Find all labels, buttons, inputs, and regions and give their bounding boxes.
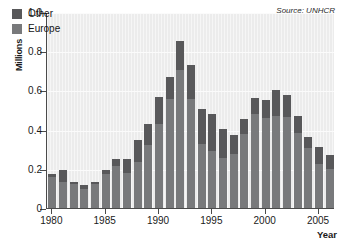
x-tick: [105, 209, 106, 214]
bar-1986: [112, 159, 120, 208]
bar-segment-europe: [230, 154, 238, 208]
bar-segment-other: [155, 97, 163, 123]
bar-segment-europe: [80, 189, 88, 208]
bar-1998: [240, 119, 248, 208]
bar-segment-other: [59, 170, 67, 182]
bar-segment-other: [283, 95, 291, 117]
bar-segment-other: [219, 129, 227, 158]
bar-segment-europe: [123, 173, 131, 208]
bar-segment-europe: [48, 177, 56, 208]
bar-segment-other: [230, 135, 238, 155]
bar-segment-other: [187, 65, 195, 99]
bar-segment-europe: [219, 158, 227, 208]
bar-1993: [187, 65, 195, 208]
legend-label-europe: Europe: [28, 24, 60, 34]
bar-1983: [80, 185, 88, 209]
x-tick-label: 1995: [191, 215, 231, 226]
bar-segment-other: [144, 124, 152, 146]
legend-item-other: Other: [12, 9, 60, 19]
y-tick-label: 0.2: [28, 164, 42, 175]
y-tick-label: 0.6: [28, 85, 42, 96]
bar-segment-other: [198, 109, 206, 144]
bar-segment-europe: [240, 134, 248, 208]
bar-segment-other: [272, 90, 280, 115]
bar-1984: [91, 182, 99, 208]
x-tick: [158, 209, 159, 214]
bar-segment-other: [326, 155, 334, 169]
bar-segment-europe: [70, 184, 78, 208]
bar-segment-other: [294, 116, 302, 133]
bar-segment-europe: [155, 124, 163, 208]
bar-2004: [304, 137, 312, 208]
bar-segment-europe: [251, 114, 259, 208]
bar-segment-other: [315, 147, 323, 164]
bar-segment-europe: [59, 182, 67, 208]
bar-series-group: [47, 13, 334, 208]
bar-2001: [272, 90, 280, 208]
bar-segment-other: [123, 159, 131, 173]
bar-segment-europe: [315, 164, 323, 208]
legend-label-other: Other: [28, 9, 53, 19]
bar-segment-other: [166, 77, 174, 100]
bar-2006: [326, 155, 334, 208]
bar-1987: [123, 159, 131, 208]
plot-area: [46, 13, 334, 209]
bar-segment-other: [251, 98, 259, 114]
bar-2000: [262, 100, 270, 208]
bar-segment-europe: [91, 184, 99, 208]
legend-item-europe: Europe: [12, 24, 60, 34]
bar-1988: [134, 140, 142, 208]
bar-segment-other: [112, 159, 120, 166]
bar-2002: [283, 95, 291, 208]
bar-segment-europe: [112, 166, 120, 208]
bar-1999: [251, 98, 259, 208]
y-tick-label: 0: [36, 203, 42, 214]
y-tick-label: 0.4: [28, 125, 42, 136]
bar-1980: [48, 174, 56, 208]
bar-segment-europe: [283, 117, 291, 208]
chart-legend: Other Europe: [12, 9, 60, 39]
bar-segment-europe: [304, 148, 312, 208]
bar-1994: [198, 109, 206, 208]
bar-segment-europe: [208, 151, 216, 208]
asylum-applications-chart: Millions 00.20.40.60.81.0 19801985199019…: [0, 0, 343, 247]
x-tick: [51, 209, 52, 214]
bar-segment-other: [304, 137, 312, 148]
source-annotation: Source: UNHCR: [276, 6, 335, 15]
bar-1997: [230, 135, 238, 208]
x-tick: [211, 209, 212, 214]
bar-2003: [294, 116, 302, 208]
bar-1981: [59, 170, 67, 208]
bar-segment-europe: [294, 133, 302, 208]
x-tick: [265, 209, 266, 214]
x-tick-label: 2005: [298, 215, 338, 226]
bar-segment-other: [134, 140, 142, 162]
bar-segment-europe: [166, 99, 174, 208]
bar-1992: [176, 41, 184, 208]
x-tick-label: 1985: [85, 215, 125, 226]
x-tick-label: 1980: [31, 215, 71, 226]
x-tick: [318, 209, 319, 214]
bar-segment-other: [262, 100, 270, 118]
bar-segment-europe: [176, 70, 184, 208]
x-tick-label: 1990: [138, 215, 178, 226]
x-tick-label: 2000: [245, 215, 285, 226]
legend-swatch-europe: [12, 24, 22, 34]
legend-swatch-other: [12, 9, 22, 19]
y-tick-label: 0.8: [28, 46, 42, 57]
bar-segment-europe: [198, 144, 206, 208]
bar-1982: [70, 182, 78, 208]
bar-segment-europe: [187, 99, 195, 208]
bar-1985: [102, 170, 110, 208]
bar-1995: [208, 114, 216, 208]
bar-segment-europe: [102, 174, 110, 208]
bar-1991: [166, 77, 174, 208]
bar-2005: [315, 147, 323, 208]
bar-segment-other: [176, 41, 184, 69]
x-axis-title: Year: [317, 229, 337, 240]
bar-segment-europe: [134, 162, 142, 208]
bar-1990: [155, 97, 163, 208]
bar-1989: [144, 124, 152, 208]
bar-segment-other: [208, 114, 216, 151]
bar-segment-europe: [144, 145, 152, 208]
